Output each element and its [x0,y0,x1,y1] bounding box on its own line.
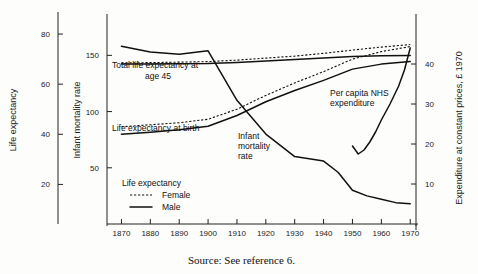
figure-root: 204060805010015010203040Life expectancyI… [0,0,478,274]
ticklabel-x-1950: 1950 [344,229,362,238]
ticklabel-x-1940: 1940 [315,229,333,238]
annotation-life-expectancy-at-birth-line-0: Life expectancy at birth [112,123,200,133]
ticklabel-nhs-expenditure-40: 40 [425,60,434,69]
annotation-per-capita-nhs-expenditure-line-1: expenditure [330,98,375,108]
ticklabel-infant-mortality-50: 50 [90,164,99,173]
ticklabel-nhs-expenditure-10: 10 [425,180,434,189]
ticklabel-infant-mortality-100: 100 [86,108,100,117]
ticklabel-life-expectancy-40: 40 [41,130,50,139]
ticklabel-x-1960: 1960 [372,229,390,238]
legend-label-female: Female [162,190,191,200]
axis-title-life-expectancy: Life expectancy [8,88,18,151]
ticklabel-x-1880: 1880 [141,229,159,238]
annotation-total-life-expectancy-at-age-45-line-0: Total life expectancy at [112,60,199,70]
axis-nhs-expenditure: 10203040 [411,14,434,226]
source-note-wrap: Source: See reference 6. [188,250,295,268]
source-note: Source: See reference 6. [188,254,295,266]
axis-infant-mortality: 50100150 [86,14,112,226]
annotation-total-life-expectancy-at-age-45: Total life expectancy atage 45 [112,60,199,81]
ticklabel-life-expectancy-20: 20 [41,180,50,189]
axis-title-nhs-expenditure: Expenditure at constant prices, £ 1970 [454,51,464,205]
ticklabel-life-expectancy-80: 80 [41,30,50,39]
ticklabel-x-1900: 1900 [199,229,217,238]
ticklabel-infant-mortality-150: 150 [86,51,100,60]
annotation-infant-mortality-rate-line-0: Infant [238,131,260,141]
legend-label-male: Male [162,202,181,212]
ticklabel-x-1920: 1920 [257,229,275,238]
legend-title: Life expectancy [122,178,182,188]
ticklabel-x-1970: 1970 [401,229,419,238]
axis-life-expectancy: 20406080 [41,12,63,224]
chart-canvas: 204060805010015010203040Life expectancyI… [0,0,478,274]
annotation-per-capita-nhs-expenditure: Per capita NHSexpenditure [330,88,389,108]
annotation-infant-mortality-rate-line-1: mortality [238,141,271,151]
annotation-infant-mortality-rate: Infantmortalityrate [238,131,271,161]
annotation-total-life-expectancy-at-age-45-line-1: age 45 [145,71,171,81]
annotation-per-capita-nhs-expenditure-line-0: Per capita NHS [330,88,389,98]
ticklabel-x-1870: 1870 [113,229,131,238]
ticklabel-x-1930: 1930 [286,229,304,238]
annotation-infant-mortality-rate-line-2: rate [238,151,253,161]
axis-title-infant-mortality: Infant mortality rate [72,81,82,158]
ticklabel-life-expectancy-60: 60 [41,80,50,89]
annotation-life-expectancy-at-birth: Life expectancy at birth [112,123,200,133]
axis-x: 1870188018901900191019201930194019501960… [107,219,420,238]
ticklabel-x-1910: 1910 [228,229,246,238]
ticklabel-nhs-expenditure-30: 30 [425,100,434,109]
ticklabel-nhs-expenditure-20: 20 [425,140,434,149]
ticklabel-x-1890: 1890 [170,229,188,238]
legend: Life expectancyFemaleMale [122,178,191,212]
